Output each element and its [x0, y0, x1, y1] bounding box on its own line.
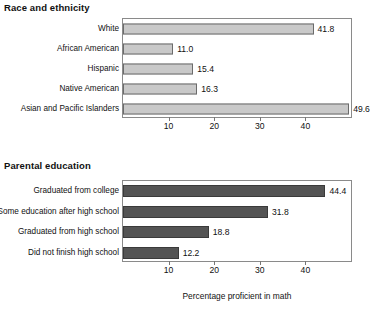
plot-area-race-and-ethnicity: White41.8African American11.0Hispanic15.…	[122, 18, 352, 118]
bar-value-label: 12.2	[183, 248, 200, 257]
category-label: White	[98, 25, 119, 33]
bar	[123, 24, 314, 35]
bar	[123, 206, 268, 218]
x-axis-tick-label: 40	[301, 266, 311, 275]
bar-value-label: 44.4	[329, 187, 346, 196]
category-label: African American	[57, 45, 119, 53]
bar	[123, 185, 325, 197]
bar	[123, 44, 173, 55]
category-label: Did not finish high school	[28, 249, 119, 257]
bar	[123, 84, 197, 95]
category-label: Asian and Pacific Islanders	[21, 105, 119, 113]
category-label: Some education after high school	[0, 208, 119, 216]
bar	[123, 104, 349, 115]
chart-title-race-and-ethnicity: Race and ethnicity	[4, 2, 90, 13]
bar-value-label: 49.6	[353, 105, 370, 114]
x-axis-tick-label: 40	[301, 122, 311, 131]
plot-area-parental-education: Graduated from college44.4Some education…	[122, 180, 352, 262]
x-axis-tick-label: 20	[209, 122, 219, 131]
category-label: Hispanic	[88, 65, 119, 73]
bar-value-label: 15.4	[197, 65, 214, 74]
bar-value-label: 31.8	[272, 207, 289, 216]
category-label: Graduated from college	[33, 187, 119, 195]
chart-title-parental-education: Parental education	[4, 160, 91, 171]
bar-value-label: 18.8	[213, 228, 230, 237]
bar	[123, 247, 179, 259]
bar-value-label: 11.0	[177, 45, 193, 54]
bar-value-label: 41.8	[318, 25, 335, 34]
x-axis-tick-label: 20	[209, 266, 219, 275]
bar	[123, 64, 193, 75]
bar-value-label: 16.3	[201, 85, 218, 94]
chart-panel-race-and-ethnicity: Race and ethnicity White41.8African Amer…	[0, 0, 380, 150]
bar	[123, 226, 209, 238]
x-axis-tick-label: 30	[255, 122, 265, 131]
category-label: Native American	[59, 85, 119, 93]
category-label: Graduated from high school	[18, 228, 119, 236]
chart-panel-parental-education: Parental education Graduated from colleg…	[0, 158, 380, 313]
x-axis-tick-label: 10	[164, 122, 174, 131]
x-axis-tick-label: 10	[164, 266, 174, 275]
x-axis-tick-label: 30	[255, 266, 265, 275]
x-axis-title: Percentage proficient in math	[122, 291, 352, 301]
